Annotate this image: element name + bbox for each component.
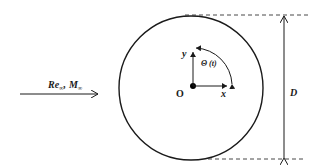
x-axis-label: x: [220, 88, 226, 99]
origin-label: O: [176, 88, 184, 99]
y-axis-label: y: [181, 48, 187, 59]
freestream-label: Re∞,M∞: [47, 79, 83, 91]
rotation-label: Θ (t): [201, 59, 217, 68]
cylinder-diagram: Re∞,M∞ O y x Θ (t) D: [0, 0, 314, 168]
diameter-label: D: [289, 87, 297, 98]
